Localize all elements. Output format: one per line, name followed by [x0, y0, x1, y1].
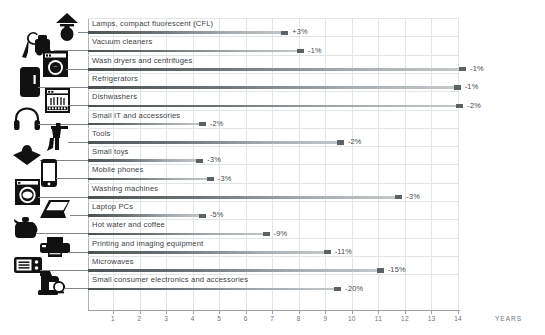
coffee-machine-icon: [36, 270, 68, 296]
category-label: Refrigerators: [92, 74, 138, 83]
tick-9: [325, 310, 326, 314]
lifetime-bar: [88, 86, 461, 89]
category-label: Hot water and coffee: [92, 220, 165, 229]
tick-8: [299, 310, 300, 314]
bar-value-label: -3%: [218, 174, 232, 183]
bar-end-marker: [324, 250, 331, 254]
icon-leader-line: [68, 252, 88, 253]
lifetime-bar: [88, 123, 206, 126]
tick-10: [352, 310, 353, 314]
bar-end-marker: [377, 268, 384, 272]
tick-label-14: 14: [448, 315, 468, 322]
laptop-icon: [38, 197, 74, 223]
bar-end-marker: [456, 104, 463, 108]
bar-value-label: +3%: [292, 27, 308, 36]
bar-end-marker: [395, 195, 402, 199]
lifetime-chart: 1234567891011121314 YEARS Lamps, compact…: [0, 0, 545, 335]
bar-end-marker: [281, 31, 288, 35]
tick-label-4: 4: [183, 315, 203, 322]
bar-end-marker: [459, 67, 466, 71]
chart-row: Refrigerators-1%: [0, 73, 545, 91]
lifetime-bar: [88, 251, 331, 254]
icon-leader-line: [78, 32, 88, 33]
chart-row: Mobile phones-3%: [0, 164, 545, 182]
bar-value-label: -20%: [345, 284, 363, 293]
bar-end-marker: [337, 140, 344, 144]
tick-4: [193, 310, 194, 314]
category-label: Dishwashers: [92, 92, 137, 101]
lifetime-bar: [88, 288, 341, 291]
lifetime-bar: [88, 31, 288, 34]
icon-leader-line: [66, 69, 88, 70]
bar-value-label: -15%: [388, 265, 406, 274]
category-label: Small IT and accessories: [92, 111, 180, 120]
bar-end-marker: [263, 232, 270, 236]
category-label: Small consumer electronics and accessori…: [92, 275, 248, 284]
tick-label-11: 11: [368, 315, 388, 322]
chart-row: Wash dryers and centrifuges-1%: [0, 55, 545, 73]
tick-label-2: 2: [130, 315, 150, 322]
bar-end-marker: [199, 214, 206, 218]
chart-row: Tools-2%: [0, 128, 545, 146]
category-label: Wash dryers and centrifuges: [92, 56, 192, 65]
chart-row: Microwaves-15%: [0, 256, 545, 274]
row-separator: [88, 201, 458, 202]
category-label: Mobile phones: [92, 165, 143, 174]
category-label: Small toys: [92, 147, 129, 156]
tick-11: [378, 310, 379, 314]
tick-label-1: 1: [103, 315, 123, 322]
lifetime-bar: [88, 233, 270, 236]
category-label: Microwaves: [92, 257, 134, 266]
lifetime-bar: [88, 68, 466, 71]
chart-row: Small consumer electronics and accessori…: [0, 274, 545, 292]
tick-1: [113, 310, 114, 314]
row-separator: [88, 91, 458, 92]
x-axis-title: YEARS: [495, 315, 522, 322]
chart-row: Hot water and coffee-9%: [0, 219, 545, 237]
chart-row: Small toys-3%: [0, 146, 545, 164]
bar-value-label: -1%: [465, 82, 479, 91]
tick-label-9: 9: [315, 315, 335, 322]
tick-13: [431, 310, 432, 314]
bar-end-marker: [207, 177, 214, 181]
chart-row: Small IT and accessories-2%: [0, 110, 545, 128]
icon-leader-line: [68, 105, 88, 106]
tick-14: [458, 310, 459, 314]
category-label: Lamps, compact fluorescent (CFL): [92, 19, 213, 28]
bar-value-label: -3%: [207, 155, 221, 164]
wash-dryer-icon: [40, 51, 70, 77]
category-label: Washing machines: [92, 184, 158, 193]
bar-value-label: -11%: [335, 247, 353, 256]
category-label: Printing and imaging equipment: [92, 239, 203, 248]
bar-value-label: -2%: [210, 119, 224, 128]
chart-row: Laptop PCs-5%: [0, 201, 545, 219]
row-separator: [88, 73, 458, 74]
chart-row: Dishwashers-2%: [0, 91, 545, 109]
bar-end-marker: [196, 159, 203, 163]
tick-label-10: 10: [342, 315, 362, 322]
chart-row: Washing machines-3%: [0, 183, 545, 201]
bar-end-marker: [199, 122, 206, 126]
bar-value-label: -2%: [348, 137, 362, 146]
refrigerator-icon: [18, 69, 42, 95]
chart-row: Printing and imaging equipment-11%: [0, 238, 545, 256]
icon-leader-line: [64, 288, 88, 289]
lifetime-bar: [88, 269, 384, 272]
bar-value-label: -5%: [210, 210, 224, 219]
bar-value-label: -2%: [467, 101, 481, 110]
tick-3: [166, 310, 167, 314]
lifetime-bar: [88, 141, 344, 144]
icon-leader-line: [68, 142, 88, 143]
tick-7: [272, 310, 273, 314]
bar-value-label: -9%: [274, 229, 288, 238]
dishwasher-icon: [42, 87, 72, 113]
lifetime-bar: [88, 196, 402, 199]
bar-value-label: -1%: [308, 46, 322, 55]
tick-label-8: 8: [289, 315, 309, 322]
tick-label-13: 13: [421, 315, 441, 322]
icon-leader-line: [56, 178, 88, 179]
bar-end-marker: [297, 49, 304, 53]
tick-label-5: 5: [209, 315, 229, 322]
icon-leader-line: [70, 215, 88, 216]
row-separator: [88, 164, 458, 165]
